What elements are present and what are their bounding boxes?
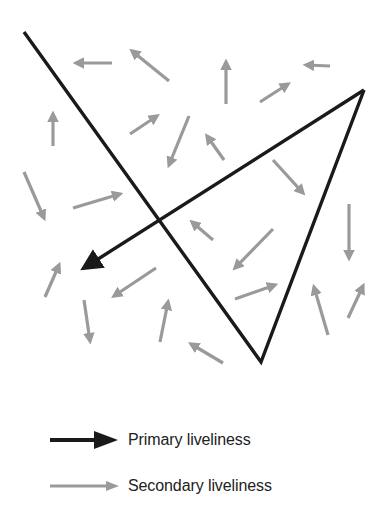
- secondary-arrow: [260, 84, 288, 102]
- liveliness-diagram: [0, 0, 392, 400]
- primary-path: [24, 32, 364, 362]
- secondary-arrow: [191, 344, 223, 363]
- secondary-arrow: [306, 65, 330, 66]
- legend-item-secondary: Secondary liveliness: [44, 466, 374, 506]
- gray-arrow-icon: [44, 475, 124, 497]
- secondary-arrow: [160, 302, 168, 342]
- secondary-arrow: [273, 160, 303, 193]
- secondary-arrow: [130, 116, 157, 134]
- secondary-arrow: [235, 229, 273, 268]
- secondary-arrow: [314, 287, 328, 335]
- secondary-arrow: [132, 51, 169, 81]
- legend-item-primary: Primary liveliness: [44, 420, 374, 460]
- black-arrow-icon: [44, 429, 124, 451]
- secondary-arrow: [73, 194, 120, 208]
- secondary-arrow: [24, 172, 44, 218]
- secondary-arrow: [192, 222, 213, 240]
- primary-arrow: [84, 90, 364, 268]
- secondary-arrows: [24, 51, 363, 363]
- secondary-arrow: [114, 268, 156, 296]
- legend-label-secondary: Secondary liveliness: [128, 477, 272, 495]
- secondary-arrow: [207, 136, 224, 160]
- legend: Primary liveliness Secondary liveliness: [44, 420, 374, 506]
- secondary-arrow: [169, 116, 189, 165]
- legend-label-primary: Primary liveliness: [128, 431, 251, 449]
- secondary-arrow: [235, 285, 275, 299]
- secondary-arrow: [84, 300, 90, 341]
- secondary-arrow: [45, 265, 59, 297]
- secondary-arrow: [348, 286, 363, 318]
